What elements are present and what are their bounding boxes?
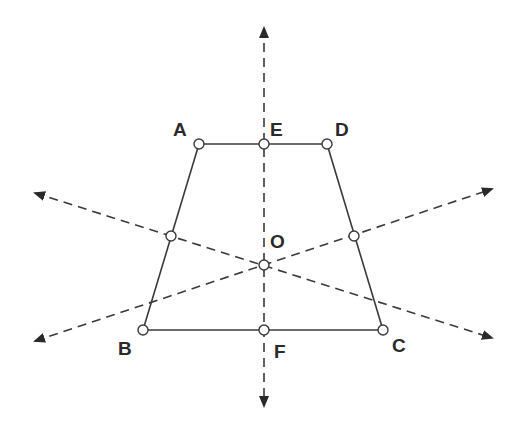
point-D [322,139,332,149]
label-D: D [335,119,349,140]
label-B: B [118,338,132,359]
point-midpoint-AB [166,231,176,241]
label-F: F [274,341,286,362]
point-B [138,325,148,335]
points-group [138,139,388,335]
trapezoid-diagram: A E D B F C O [0,0,516,423]
point-E [259,139,269,149]
trapezoid-edges [143,144,383,330]
diagram-canvas: A E D B F C O [0,0,516,423]
label-O: O [270,231,285,252]
label-E: E [270,119,283,140]
label-A: A [173,119,187,140]
label-C: C [392,335,406,356]
axes-group [35,28,492,406]
point-midpoint-CD [349,231,359,241]
point-A [194,139,204,149]
point-C [378,325,388,335]
point-O [259,260,269,270]
point-F [259,325,269,335]
